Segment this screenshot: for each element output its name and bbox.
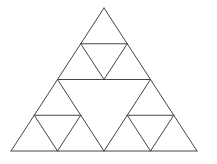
- triangle-edge: [151, 115, 174, 151]
- sierpinski-diagram: [0, 0, 217, 164]
- triangle-edge: [58, 115, 81, 151]
- triangle-edge: [127, 115, 150, 151]
- sierpinski-triangle-figure: [0, 0, 217, 164]
- triangle-edge: [81, 44, 104, 80]
- triangle-edge: [104, 44, 127, 80]
- triangle-edge: [34, 115, 57, 151]
